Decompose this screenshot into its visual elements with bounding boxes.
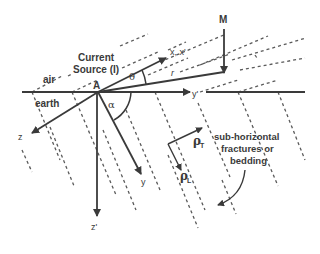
point-a-label: A: [93, 80, 100, 91]
rho-t-label: ρ T: [193, 134, 205, 149]
fractures-label-1: sub-horizontal: [214, 131, 279, 142]
axis-y-prime-label: y': [192, 89, 199, 99]
radius-label: r: [171, 68, 175, 78]
axis-y-label: y: [141, 177, 146, 187]
earth-label: earth: [35, 98, 59, 109]
svg-text:T: T: [200, 142, 205, 149]
axis-x-label: x, x': [170, 47, 186, 57]
theta-label: θ: [129, 71, 135, 82]
current-source-label-1: Current: [78, 52, 115, 63]
diagram-svg: Current Source (I) air earth A M x, x' y…: [0, 0, 320, 254]
axis-z-prime-label: z': [91, 222, 98, 232]
fractures-label-3: bedding: [230, 155, 267, 166]
air-label: air: [43, 74, 55, 85]
axis-y-arrow: [98, 92, 141, 174]
fractures-pointer-arrow: [218, 170, 245, 205]
diagram-canvas: Current Source (I) air earth A M x, x' y…: [0, 0, 320, 254]
fractures-label-2: fractures or: [221, 143, 274, 154]
rho-l-label: ρ L: [180, 169, 192, 184]
axis-z-label: z: [18, 132, 23, 142]
svg-text:L: L: [187, 177, 192, 184]
point-m-label: M: [219, 14, 227, 25]
current-source-label-2: Source (I): [73, 64, 119, 75]
alpha-label: α: [108, 99, 115, 110]
theta-arc: [142, 70, 146, 84]
fracture-lines-above: [32, 34, 306, 92]
